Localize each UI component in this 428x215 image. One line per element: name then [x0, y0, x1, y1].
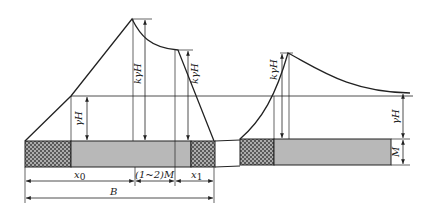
seam-gap-bottom [215, 166, 240, 167]
gamma-h-label-right: γH [390, 109, 401, 124]
k-gamma-h-label-peak: kγH [132, 63, 143, 84]
left-panel: γH kγH kγH x0 (1~2)M x1 B [25, 19, 413, 203]
right-coal-seam [240, 139, 391, 165]
k-gamma-h-label-secondary: kγH [189, 63, 200, 84]
right-pillar-hatched-block [240, 139, 274, 165]
k-gamma-h-label-right: kγH [268, 59, 279, 80]
diagram-canvas: γH kγH kγH x0 (1~2)M x1 B [0, 0, 428, 215]
dim-x0-label: x0 [74, 169, 86, 182]
right-seam-grey-block [274, 139, 391, 165]
seam-gap-top [215, 140, 240, 141]
left-stress-curve [25, 19, 214, 141]
left-seam-grey-block [71, 141, 191, 167]
left-goaf-hatched-block [25, 141, 71, 167]
gamma-h-label-left: γH [73, 111, 84, 126]
dim-x1-label: x1 [191, 169, 202, 182]
left-coal-seam [25, 141, 215, 167]
dim-gap-label: (1~2)M [135, 169, 175, 180]
dim-b-label: B [109, 186, 117, 197]
thickness-label-m: M [390, 146, 401, 158]
right-panel: kγH γH M [215, 53, 410, 167]
left-pillar-hatched-block [191, 141, 215, 167]
